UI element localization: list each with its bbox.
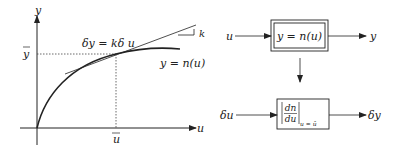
- curve-equation: y = n(u): [159, 57, 205, 70]
- nonlinear-curve: [37, 48, 180, 128]
- slope-triangle: [178, 29, 194, 35]
- y-axis-label: y: [34, 4, 42, 17]
- nonlinear-graph: y u y u δy = kδ u y = n(u) k: [20, 4, 205, 146]
- linearization-figure: y u y u δy = kδ u y = n(u) k u y = n(u) …: [0, 0, 400, 152]
- derivative-subscript: u = ū: [300, 120, 317, 127]
- block-diagram: u y = n(u) y δu dn du u = ū δy: [220, 20, 382, 129]
- slope-label: k: [199, 28, 205, 39]
- derivative-denominator: du: [285, 114, 297, 124]
- linear-output-label: δy: [368, 109, 382, 122]
- nonlinear-output-label: y: [369, 30, 377, 43]
- tangent-equation: δy = kδ u: [82, 37, 135, 50]
- derivative-numerator: dn: [285, 103, 297, 113]
- linear-input-label: δu: [220, 109, 234, 122]
- y-bar-label: y: [22, 48, 30, 61]
- nonlinear-block-label: y = n(u): [276, 30, 322, 43]
- u-bar-label: u: [113, 133, 120, 146]
- nonlinear-input-label: u: [226, 30, 233, 43]
- x-axis-label: u: [197, 122, 204, 135]
